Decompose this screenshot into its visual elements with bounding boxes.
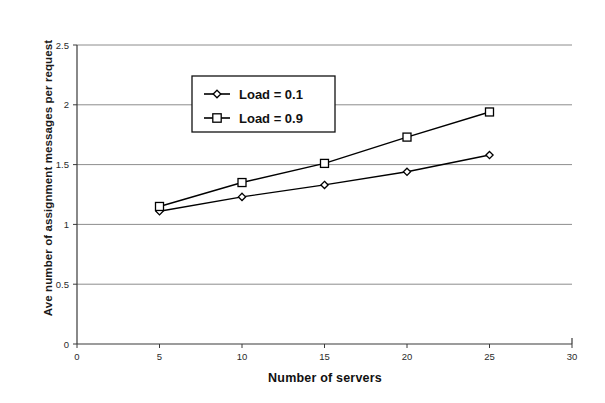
- marker-square: [321, 159, 329, 167]
- x-tick-label: 0: [74, 351, 79, 362]
- y-tick-label: 0: [64, 339, 69, 350]
- x-tick-label: 10: [237, 351, 248, 362]
- y-tick-label: 2: [64, 99, 69, 110]
- x-tick-label: 5: [157, 351, 162, 362]
- marker-square: [156, 202, 164, 210]
- marker-square: [486, 108, 494, 116]
- marker-diamond: [403, 168, 410, 175]
- y-tick-group: 00.511.522.5: [56, 40, 77, 350]
- x-axis-title: Number of servers: [77, 371, 573, 385]
- y-tick-label: 0.5: [56, 279, 69, 290]
- legend-label-1: Load = 0.1: [239, 87, 303, 102]
- plot-area: 051015202530 00.511.522.5 Load = 0.1Load…: [0, 0, 605, 403]
- marker-square: [213, 114, 221, 122]
- legend-label-2: Load = 0.9: [239, 111, 303, 126]
- marker-square: [238, 179, 246, 187]
- y-tick-label: 2.5: [56, 40, 69, 51]
- y-tick-label: 1: [64, 219, 69, 230]
- x-tick-label: 15: [319, 351, 330, 362]
- marker-diamond: [486, 151, 493, 158]
- marker-square: [403, 133, 411, 141]
- chart-container: Ave number of assignment messages per re…: [0, 0, 605, 403]
- x-tick-label: 30: [567, 351, 578, 362]
- y-tick-label: 1.5: [56, 159, 69, 170]
- x-tick-label: 25: [484, 351, 495, 362]
- x-tick-group: 051015202530: [74, 344, 577, 362]
- x-tick-label: 20: [402, 351, 413, 362]
- marker-diamond: [321, 181, 328, 188]
- marker-diamond: [238, 193, 245, 200]
- legend-box: Load = 0.1Load = 0.9: [192, 76, 335, 132]
